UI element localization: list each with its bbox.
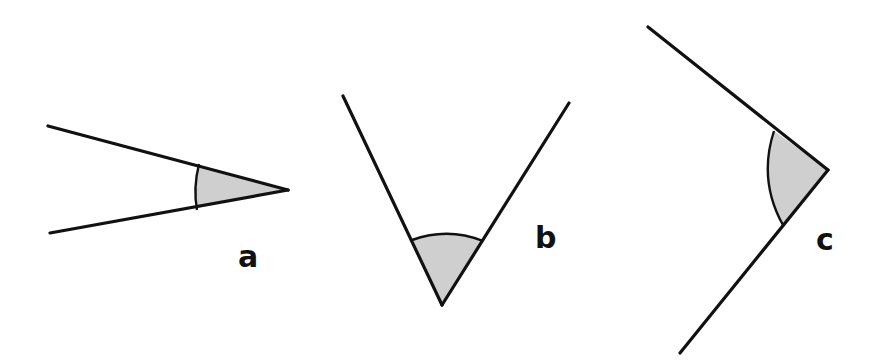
angle-a-label: a [238,239,258,274]
angles-diagram: a b c [0,0,882,363]
angle-c-upper-arm [648,27,828,170]
angle-c-lower-arm [680,170,828,353]
angle-a-shaded-sector [196,168,288,208]
angle-c-label: c [816,222,834,257]
angle-b-left-arm [343,96,442,305]
angle-b: b [343,96,569,305]
angle-b-right-arm [442,103,569,305]
angle-c: c [648,27,834,353]
angle-a-lower-arm [50,190,288,233]
angle-a: a [48,126,288,274]
angle-b-label: b [535,220,556,255]
angle-a-upper-arm [48,126,288,190]
